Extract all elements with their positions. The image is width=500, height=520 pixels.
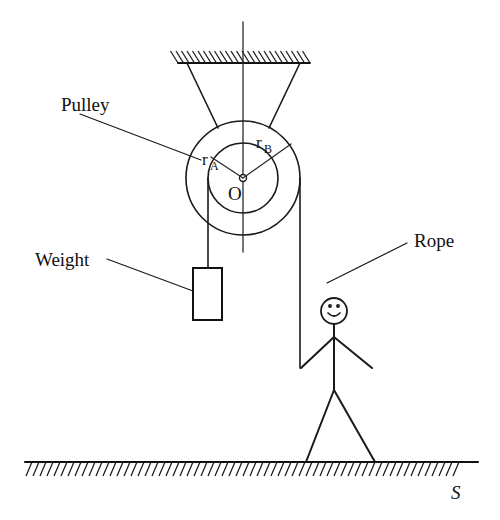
pulley-weight-person-diagram: r A r B O — [0, 0, 500, 520]
pulley-leader-line — [80, 114, 201, 160]
person-figure — [301, 298, 375, 462]
radius-a-base-label: r — [202, 150, 208, 169]
weight-block — [193, 268, 222, 320]
person-right-eye-icon — [337, 305, 339, 307]
radius-b-base-label: r — [256, 133, 262, 152]
weight-leader-line — [107, 259, 193, 291]
support-strut-left — [187, 63, 218, 128]
ground-surface — [25, 462, 478, 476]
surface-label: S — [451, 482, 461, 503]
ground-hatching — [26, 462, 459, 476]
person-left-arm — [301, 337, 334, 368]
radius-b-subscript-label: B — [264, 142, 272, 156]
ceiling-hatching — [171, 51, 311, 63]
person-right-arm — [334, 337, 372, 368]
person-head — [321, 298, 347, 324]
person-left-leg — [306, 390, 334, 462]
person-right-leg — [334, 390, 375, 462]
support-strut-right — [269, 63, 300, 128]
weight-label: Weight — [35, 249, 90, 270]
pulley-label: Pulley — [61, 94, 110, 115]
person-left-eye-icon — [329, 305, 331, 307]
pulley-center-label: O — [228, 183, 242, 204]
radius-a-label-group: r A — [202, 150, 219, 173]
person-smile-icon — [328, 313, 340, 316]
radius-b-label-group: r B — [256, 133, 272, 156]
radius-a-subscript-label: A — [210, 159, 219, 173]
rope-leader-line — [327, 243, 407, 283]
physics-diagram-canvas: r A r B O — [0, 0, 500, 520]
ceiling-support — [171, 51, 311, 63]
rope-label: Rope — [414, 230, 454, 251]
